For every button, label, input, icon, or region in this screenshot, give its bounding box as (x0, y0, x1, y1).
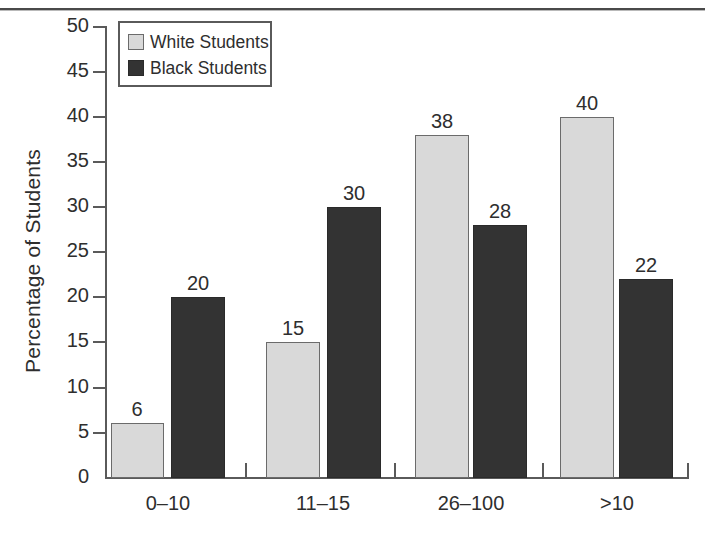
bar-value-white-0-10: 6 (102, 398, 172, 421)
x-group-tick-2 (394, 463, 396, 478)
y-tick-label-5: 5 (43, 420, 89, 443)
bar-white-26-100 (415, 135, 469, 478)
y-tick-mark-10 (93, 387, 106, 389)
legend-entry-white-students: White Students (128, 29, 270, 55)
bar-white-gt10 (560, 117, 614, 478)
bar-value-black-0-10: 20 (163, 272, 233, 295)
y-tick-label-20: 20 (43, 284, 89, 307)
y-tick-label-25: 25 (43, 239, 89, 262)
y-tick-mark-50 (93, 26, 106, 28)
bar-value-black-26-100: 28 (465, 200, 535, 223)
bar-value-white-gt10: 40 (552, 92, 622, 115)
y-tick-label-30: 30 (43, 194, 89, 217)
y-tick-label-35: 35 (43, 149, 89, 172)
y-tick-mark-40 (93, 116, 106, 118)
bar-black-0-10 (171, 297, 225, 478)
legend-label-black-students: Black Students (150, 58, 267, 79)
y-tick-mark-20 (93, 296, 106, 298)
y-tick-label-50: 50 (43, 14, 89, 37)
y-tick-label-15: 15 (43, 329, 89, 352)
bar-black-gt10 (619, 279, 673, 478)
legend-entry-black-students: Black Students (128, 55, 270, 81)
bar-chart-figure: Percentage of Students 50 45 40 35 30 25… (0, 0, 705, 537)
y-tick-label-40: 40 (43, 104, 89, 127)
bar-value-white-11-15: 15 (258, 317, 328, 340)
legend-swatch-black-icon (128, 60, 144, 76)
y-tick-label-10: 10 (43, 375, 89, 398)
page-rule-shadow (0, 10, 705, 11)
x-category-label-26-100: 26–100 (391, 492, 551, 515)
legend-label-white-students: White Students (150, 32, 269, 53)
legend-swatch-white-icon (128, 34, 144, 50)
y-tick-mark-5 (93, 432, 106, 434)
x-group-tick-3 (542, 463, 544, 478)
y-tick-mark-35 (93, 161, 106, 163)
bar-black-11-15 (327, 207, 381, 478)
y-tick-mark-30 (93, 206, 106, 208)
y-tick-mark-45 (93, 71, 106, 73)
bar-white-0-10 (111, 423, 164, 478)
y-tick-label-45: 45 (43, 59, 89, 82)
x-group-tick-1 (245, 463, 247, 478)
bar-white-11-15 (266, 342, 320, 478)
x-category-label-0-10: 0–10 (88, 492, 248, 515)
bar-value-white-26-100: 38 (407, 110, 477, 133)
x-category-label-11-15: 11–15 (243, 492, 403, 515)
bar-black-26-100 (473, 225, 527, 478)
y-tick-mark-15 (93, 341, 106, 343)
y-tick-label-0: 0 (43, 465, 89, 488)
y-tick-mark-25 (93, 251, 106, 253)
bar-value-black-gt10: 22 (611, 254, 681, 277)
y-axis-label: Percentage of Students (21, 131, 45, 391)
x-category-label-gt10: >10 (537, 492, 697, 515)
chart-legend: White Students Black Students (118, 21, 272, 87)
bar-value-black-11-15: 30 (319, 182, 389, 205)
x-axis-end-tick (687, 463, 689, 478)
